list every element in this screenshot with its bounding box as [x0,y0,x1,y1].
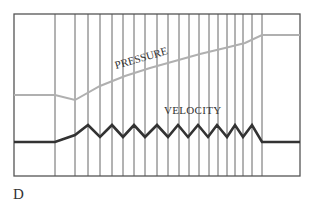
pressure-label: PRESSURE [113,44,169,71]
flow-diagram: PRESSURE VELOCITY [0,0,317,206]
panel-letter: D [13,186,24,203]
velocity-label: VELOCITY [164,104,221,116]
vertical-grid-lines [55,14,262,176]
